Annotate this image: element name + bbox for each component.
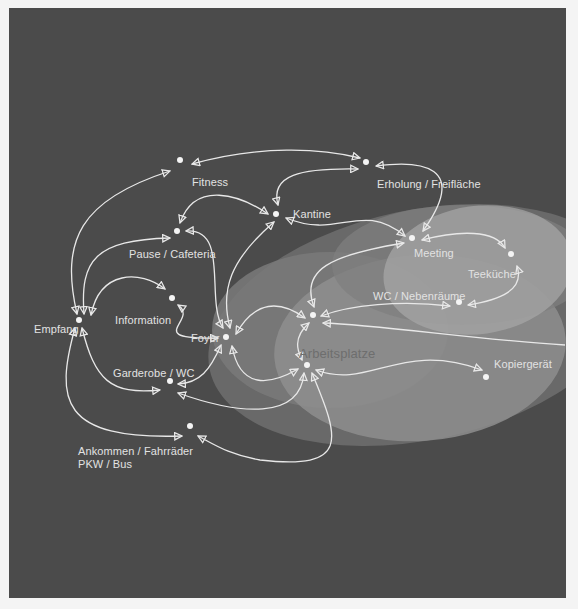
node-dot-erholung (363, 159, 369, 165)
label-information: Information (115, 314, 171, 327)
label-erholung: Erholung / Freifläche (377, 178, 481, 191)
relationship-diagram (9, 8, 566, 598)
node-dot-foyer (223, 334, 229, 340)
label-ankommen-line2: PKW / Bus (78, 458, 132, 471)
node-dot-kantine (273, 211, 279, 217)
label-kopiergeraet: Kopiergerät (494, 358, 552, 371)
node-dot-pause (174, 228, 180, 234)
edge-empfang-ankommen (66, 328, 182, 436)
label-meeting: Meeting (414, 247, 454, 260)
edge-pause-foyer (186, 231, 223, 328)
edge-empfang-garderobe (82, 328, 160, 391)
diagram-panel: Fitness Erholung / Freifläche Kantine Pa… (9, 8, 566, 598)
edge-pause-kantine (180, 195, 268, 223)
node-dot-teekueche (508, 251, 514, 257)
edge-erholung-kantine (277, 169, 358, 205)
label-garderobe: Garderobe / WC (113, 367, 194, 380)
node-dot-kopiergeraet (483, 374, 489, 380)
label-empfang: Empfang (34, 323, 79, 336)
edge-empfang-information (91, 277, 165, 315)
edge-fitness-erholung (192, 150, 360, 164)
label-kantine: Kantine (293, 208, 331, 221)
label-foyer: Foyer (191, 332, 220, 345)
node-dot-fitness (177, 157, 183, 163)
edge-empfang-fitness (71, 171, 170, 314)
node-dot-information (169, 295, 175, 301)
node-dot-arbeitsplatz-2 (304, 362, 310, 368)
label-pause: Pause / Cafeteria (129, 248, 216, 261)
node-dot-ankommen (187, 423, 193, 429)
label-teekueche: Teeküche (468, 268, 516, 281)
node-dot-arbeitsplatz-1 (310, 312, 316, 318)
label-ankommen-line1: Ankommen / Fahrräder (78, 445, 193, 458)
zone-ellipses (186, 168, 566, 482)
label-arbeitsplatze-zone: Arbeitsplatze (299, 347, 375, 360)
node-dot-meeting (409, 235, 415, 241)
label-fitness: Fitness (192, 176, 228, 189)
label-wc-nebenraeume: WC / Nebenräume (373, 290, 466, 303)
